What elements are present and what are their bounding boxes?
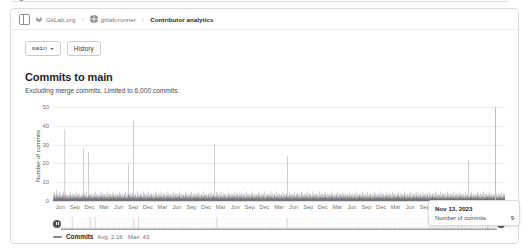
x-axis-tick-label: Sep [128,204,138,210]
dot-indicator-icon [19,0,24,1]
x-axis-tick-label: Sep [303,204,313,210]
chart-legend[interactable]: Commits Avg: 2.16 · Max: 43 [53,233,149,240]
page-subtitle: Excluding merge commits. Limited to 6,00… [25,87,179,94]
breadcrumb-separator: › [81,16,83,23]
x-axis-tick-label: Mar [332,204,342,210]
commits-bar-series [53,107,505,201]
y-axis-tick-label: 0 [46,198,49,204]
y-axis-tick-label: 10 [43,179,49,185]
chart-plot-area[interactable]: 50403020100 [53,107,505,201]
x-axis-tick-label: Jun [289,204,298,210]
x-axis-tick-label: Dec [201,204,211,210]
sidebar-toggle-icon[interactable] [19,14,30,25]
chart-crosshair [495,107,496,201]
legend-series-stats: Avg: 2.16 · Max: 43 [97,234,149,240]
x-axis-tick-label: Dec [318,204,328,210]
legend-series-name: Commits [66,233,93,240]
breadcrumb-label-project: gitlab-runner [101,16,136,23]
x-axis-tick-label: Sep [187,204,197,210]
x-axis-tick-label: Mar [391,204,401,210]
breadcrumb-label-current: Contributor analytics [150,16,213,23]
project-avatar-icon [90,15,98,23]
x-axis-tick-label: Mar [158,204,168,210]
breadcrumb: GitLab.org › gitlab-runner › Contributor… [11,9,518,30]
history-button[interactable]: History [67,41,101,56]
chevron-down-icon [50,48,54,50]
x-axis-tick-label: Mar [99,204,109,210]
y-axis-tick-label: 20 [43,160,49,166]
grip-line-icon [58,222,59,226]
screenshot-root: GitLab.org › gitlab-runner › Contributor… [0,0,529,252]
chart-tooltip: Nov 13, 2023 Number of commits 9 [428,200,520,226]
datazoom-handle-left-icon[interactable] [53,220,61,228]
breadcrumb-label-group: GitLab.org [46,16,75,23]
y-axis-tick-label: 30 [43,142,49,148]
gitlab-logo-icon [35,15,43,23]
x-axis-tick-label: Jun [347,204,356,210]
breadcrumb-item-project[interactable]: gitlab-runner [90,15,136,23]
x-axis-tick-label: Sep [362,204,372,210]
x-axis-tick-label: Jun [231,204,240,210]
contributor-analytics-card: GitLab.org › gitlab-runner › Contributor… [10,8,519,244]
commits-chart: Number of commits 50403020100 JunSepDecM… [19,101,512,243]
x-axis-tick-label: Mar [216,204,226,210]
x-axis-tick-label: Dec [143,204,153,210]
y-axis-title: Number of commits [35,121,41,191]
y-axis-tick-label: 40 [43,123,49,129]
ref-selector-button[interactable]: main [25,41,61,56]
line-marker-icon [53,236,62,238]
grip-line-icon [56,222,57,226]
x-axis-tick-label: Jun [172,204,181,210]
ref-selector-label: main [32,45,47,52]
x-axis-tick-label: Jun [114,204,123,210]
page-title: Commits to main [25,71,113,83]
x-axis-tick-label: Dec [376,204,386,210]
x-axis-tick-label: Sep [70,204,80,210]
breadcrumb-item-group[interactable]: GitLab.org [35,15,75,23]
breadcrumb-item-current: Contributor analytics [150,16,213,23]
breadcrumb-separator: › [142,16,144,23]
tooltip-date: Nov 13, 2023 [435,205,514,212]
x-axis-tick-label: Jun [406,204,415,210]
tooltip-metric-label: Number of commits [435,215,486,221]
tooltip-row: Number of commits 9 [435,215,514,221]
history-button-label: History [74,45,94,52]
tooltip-metric-value: 9 [511,215,514,221]
top-cutoff-panel [10,0,510,2]
x-axis-tick-label: Mar [274,204,284,210]
toolbar: main History [25,41,101,56]
x-axis-tick-label: Sep [245,204,255,210]
y-axis-tick-label: 50 [43,104,49,110]
x-axis-tick-label: Jun [56,204,65,210]
x-axis-tick-label: Dec [85,204,95,210]
x-axis-tick-label: Dec [259,204,269,210]
